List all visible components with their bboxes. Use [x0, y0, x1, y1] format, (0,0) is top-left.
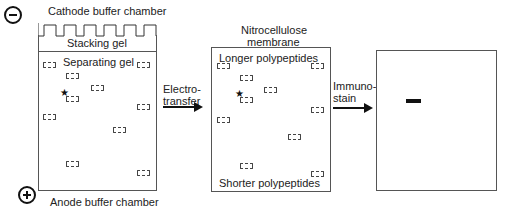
membrane-band [311, 107, 324, 113]
membrane-band [311, 63, 324, 69]
membrane-band [240, 75, 253, 81]
detected-band [406, 99, 421, 103]
stacking-gel-label: Stacking gel [67, 37, 127, 49]
gel-band [66, 161, 79, 167]
membrane-band [264, 87, 277, 93]
result-membrane-box [376, 50, 497, 191]
membrane-band [240, 163, 253, 169]
gel-band [137, 170, 150, 176]
membrane-band [288, 134, 301, 140]
gel-band [91, 85, 104, 91]
immunostain-label-line1: Immuno- [333, 80, 376, 92]
shorter-polypeptides-label: Shorter polypeptides [219, 177, 320, 189]
membrane-title-line1: Nitrocellulose [241, 24, 307, 36]
cathode-minus-icon [4, 6, 22, 24]
gel-band [113, 127, 126, 133]
membrane-band [311, 171, 324, 177]
gel-band [66, 73, 79, 79]
stacking-separating-divider [38, 51, 157, 52]
gel-band [43, 62, 56, 68]
electrotransfer-arrow-icon [163, 106, 201, 108]
electrotransfer-label-line1: Electro- [163, 83, 201, 95]
target-star-icon: ★ [60, 88, 69, 98]
gel-band [43, 114, 56, 120]
membrane-band [217, 117, 230, 123]
gel-band [137, 62, 150, 68]
immunostain-arrow-icon [333, 107, 371, 109]
anode-plus-icon [18, 186, 36, 204]
anode-buffer-label: Anode buffer chamber [50, 196, 159, 208]
immunostain-label-line2: stain [333, 92, 356, 104]
cathode-buffer-label: Cathode buffer chamber [48, 5, 166, 17]
longer-polypeptides-label: Longer polypeptides [219, 52, 318, 64]
separating-gel-label: Separating gel [63, 56, 134, 68]
target-star-icon: ★ [235, 89, 244, 99]
membrane-band [217, 63, 230, 69]
gel-band [137, 104, 150, 110]
